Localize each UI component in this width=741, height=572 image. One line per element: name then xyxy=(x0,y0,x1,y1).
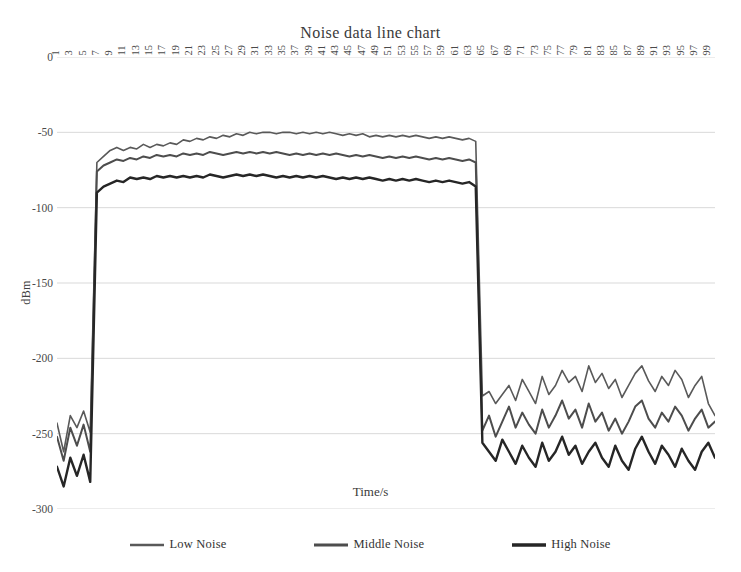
x-tick-label: 17 xyxy=(157,45,168,56)
y-tick-label: -100 xyxy=(7,202,53,214)
chart-legend: Low NoiseMiddle NoiseHigh Noise xyxy=(0,535,741,553)
y-tick-label: 0 xyxy=(7,51,53,63)
x-tick-label: 11 xyxy=(117,45,128,55)
y-tick-label: -50 xyxy=(7,126,53,138)
legend-item[interactable]: High Noise xyxy=(512,535,610,553)
x-tick-label: 73 xyxy=(529,45,540,56)
x-tick-label: 81 xyxy=(582,45,593,56)
x-tick-label: 51 xyxy=(383,45,394,56)
legend-item[interactable]: Middle Noise xyxy=(314,535,424,553)
x-tick-label: 37 xyxy=(290,45,301,56)
x-tick-label: 49 xyxy=(370,45,381,56)
gridlines xyxy=(57,57,715,509)
x-tick-label: 85 xyxy=(609,45,620,56)
x-tick-label: 89 xyxy=(635,45,646,56)
x-tick-label: 7 xyxy=(90,50,101,55)
legend-line-swatch xyxy=(512,535,546,553)
y-tick-label: -200 xyxy=(7,352,53,364)
x-tick-label: 15 xyxy=(144,45,155,56)
x-tick-label: 55 xyxy=(409,45,420,56)
x-tick-label: 33 xyxy=(263,45,274,56)
plot-area xyxy=(57,57,715,509)
x-tick-label: 77 xyxy=(556,45,567,56)
x-tick-label: 9 xyxy=(104,50,115,55)
series-line-high-noise xyxy=(57,175,715,487)
x-tick-label: 67 xyxy=(489,45,500,56)
legend-label: Middle Noise xyxy=(353,537,424,552)
x-tick-label: 79 xyxy=(569,45,580,56)
x-tick-label: 23 xyxy=(197,45,208,56)
legend-item[interactable]: Low Noise xyxy=(130,535,226,553)
x-tick-label: 59 xyxy=(436,45,447,56)
x-tick-label: 29 xyxy=(237,45,248,56)
x-tick-label: 95 xyxy=(675,45,686,56)
chart-title: Noise data line chart xyxy=(0,24,741,42)
x-tick-label: 31 xyxy=(250,45,261,56)
x-tick-label: 93 xyxy=(662,45,673,56)
y-tick-label: -300 xyxy=(7,503,53,515)
y-tick-label: -250 xyxy=(7,428,53,440)
x-tick-label: 19 xyxy=(170,45,181,56)
x-tick-label: 99 xyxy=(702,45,713,56)
x-tick-label: 69 xyxy=(502,45,513,56)
x-tick-label: 61 xyxy=(449,45,460,56)
x-tick-label: 75 xyxy=(542,45,553,56)
x-tick-label: 63 xyxy=(463,45,474,56)
x-tick-label: 3 xyxy=(64,50,75,55)
noise-line-chart: Noise data line chart 0-50-100-150-200-2… xyxy=(0,0,741,572)
legend-line-swatch xyxy=(130,535,164,553)
legend-label: Low Noise xyxy=(169,537,226,552)
x-tick-label: 39 xyxy=(303,45,314,56)
x-tick-label: 45 xyxy=(343,45,354,56)
x-tick-label: 21 xyxy=(183,45,194,56)
x-tick-label: 47 xyxy=(356,45,367,56)
series-line-middle-noise xyxy=(57,152,715,461)
x-tick-label: 5 xyxy=(77,50,88,55)
x-tick-label: 25 xyxy=(210,45,221,56)
plot-svg xyxy=(57,57,715,509)
x-tick-label: 41 xyxy=(316,45,327,56)
legend-line-swatch xyxy=(314,535,348,553)
x-tick-label: 57 xyxy=(423,45,434,56)
x-tick-label: 13 xyxy=(130,45,141,56)
x-tick-label: 83 xyxy=(596,45,607,56)
x-tick-label: 65 xyxy=(476,45,487,56)
x-tick-label: 53 xyxy=(396,45,407,56)
x-tick-label: 71 xyxy=(516,45,527,56)
x-tick-label: 27 xyxy=(223,45,234,56)
x-tick-label: 43 xyxy=(330,45,341,56)
x-axis-title: Time/s xyxy=(0,484,741,500)
legend-label: High Noise xyxy=(551,537,610,552)
y-axis-title: dBm xyxy=(19,263,34,323)
x-tick-label: 1 xyxy=(51,50,62,55)
x-tick-label: 35 xyxy=(276,45,287,56)
x-tick-label: 91 xyxy=(649,45,660,56)
x-tick-label: 87 xyxy=(622,45,633,56)
x-tick-label: 97 xyxy=(689,45,700,56)
